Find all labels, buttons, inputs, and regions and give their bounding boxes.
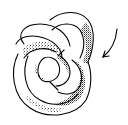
knot-illustration xyxy=(0,0,128,125)
curved-arrow-icon xyxy=(103,29,117,57)
knot-shape xyxy=(14,13,94,115)
